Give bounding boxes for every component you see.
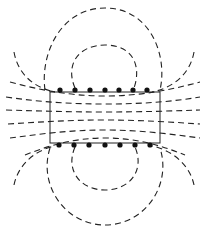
field-line-bottom-inner [72,147,138,190]
field-line-through-4 [8,120,200,124]
field-line-right-lower [152,146,194,185]
solenoid-field-diagram [0,0,202,241]
field-line-bottom-outer [47,148,163,225]
field-line-through-3 [6,110,200,112]
field-lines [6,8,200,225]
field-line-left-upper [14,52,55,92]
field-line-right-upper [152,52,194,92]
field-line-through-5 [10,130,200,138]
field-line-through-2 [6,97,200,104]
solenoid-body [50,92,160,143]
field-line-top-inner [72,45,137,88]
field-line-top-outer [44,8,162,90]
